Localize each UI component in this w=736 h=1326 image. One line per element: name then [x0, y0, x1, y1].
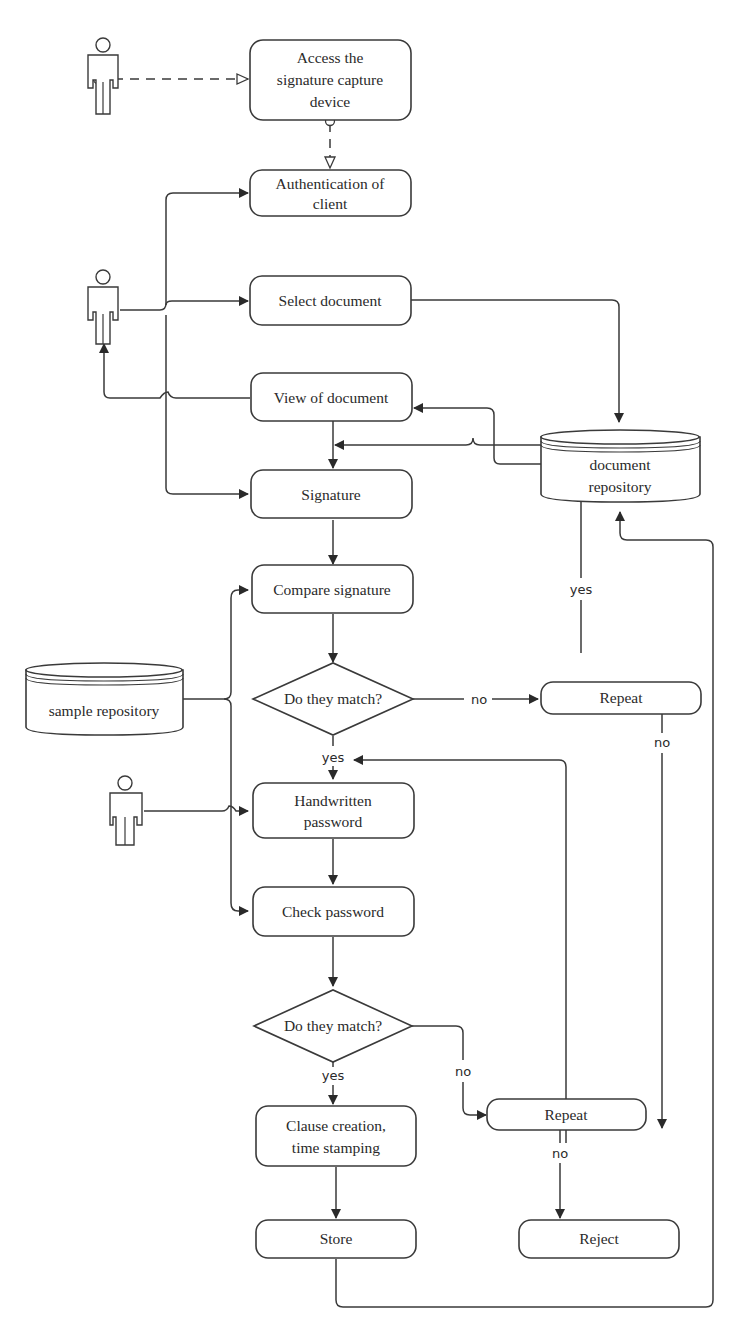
edge-pwd-no: [463, 1082, 486, 1115]
svg-text:Clause creation,: Clause creation,: [286, 1117, 386, 1134]
node-store: Store: [256, 1220, 416, 1258]
svg-text:Select document: Select document: [279, 292, 383, 309]
node-decision-signature: Do they match?: [253, 663, 413, 735]
node-clause-creation: Clause creation, time stamping: [256, 1106, 416, 1166]
svg-text:Signature: Signature: [301, 486, 361, 503]
edge-select-repo: [411, 300, 619, 422]
node-view-document: View of document: [251, 373, 412, 421]
svg-text:Check password: Check password: [282, 903, 384, 920]
svg-text:Repeat: Repeat: [599, 689, 643, 706]
actor-middle: [88, 270, 118, 344]
svg-text:repository: repository: [589, 478, 652, 495]
node-handwritten-password: Handwritten password: [253, 783, 414, 838]
svg-text:client: client: [313, 195, 348, 212]
label-sig-yes: yes: [322, 750, 345, 765]
node-sample-repository: sample repository: [26, 663, 183, 735]
edge-actor-handwritten: [144, 806, 248, 811]
node-document-repository: document repository: [541, 430, 700, 502]
node-decision-password: Do they match?: [254, 990, 412, 1062]
svg-text:Access the: Access the: [297, 49, 364, 66]
node-repeat-password: Repeat: [487, 1099, 646, 1130]
node-signature: Signature: [251, 470, 412, 518]
node-access-device: Access the signature capture device: [250, 40, 411, 120]
edge-sample-check: [224, 699, 248, 911]
node-auth-client: Authentication of client: [250, 170, 411, 216]
actor-top: [88, 38, 118, 114]
node-repeat-signature: Repeat: [541, 682, 701, 714]
svg-text:Handwritten: Handwritten: [294, 792, 372, 809]
edge-repo-view: [414, 408, 541, 464]
label-repeat-sig-no: no: [654, 735, 670, 750]
edge-actor-signature: [166, 315, 248, 494]
svg-text:device: device: [310, 93, 351, 110]
node-compare-signature: Compare signature: [252, 565, 413, 613]
svg-text:Authentication of: Authentication of: [276, 175, 386, 192]
edge-actor-select: [166, 301, 248, 305]
label-repeat-pwd-no: no: [552, 1146, 568, 1161]
label-sig-no: no: [471, 692, 487, 707]
svg-text:Compare signature: Compare signature: [273, 581, 391, 598]
edge-view-actor: [104, 344, 250, 398]
label-pwd-yes: yes: [322, 1068, 345, 1083]
svg-text:Do they match?: Do they match?: [284, 1017, 382, 1034]
svg-text:document: document: [589, 456, 651, 473]
svg-text:View of document: View of document: [274, 389, 389, 406]
svg-text:Store: Store: [320, 1230, 353, 1247]
svg-text:sample repository: sample repository: [49, 702, 160, 719]
svg-text:Reject: Reject: [579, 1230, 619, 1247]
edge-pwd-no-a: [412, 1026, 463, 1060]
svg-text:signature capture: signature capture: [277, 71, 383, 88]
edge-actor-auth: [120, 193, 248, 310]
label-pwd-no: no: [455, 1064, 471, 1079]
node-check-password: Check password: [253, 887, 414, 936]
svg-text:password: password: [304, 813, 363, 830]
svg-text:Do they match?: Do they match?: [284, 690, 382, 707]
node-reject: Reject: [519, 1220, 679, 1258]
edge-labels: no yes yes no yes no no: [322, 582, 670, 1161]
node-select-document: Select document: [250, 276, 411, 325]
label-repeat-sig-yes: yes: [570, 582, 593, 597]
svg-text:time stamping: time stamping: [292, 1139, 381, 1156]
flowchart-canvas: no yes yes no yes no no Access the signa…: [0, 0, 736, 1326]
actor-bottom: [110, 776, 142, 845]
svg-text:Repeat: Repeat: [544, 1106, 588, 1123]
edge-sample-compare: [183, 590, 248, 699]
